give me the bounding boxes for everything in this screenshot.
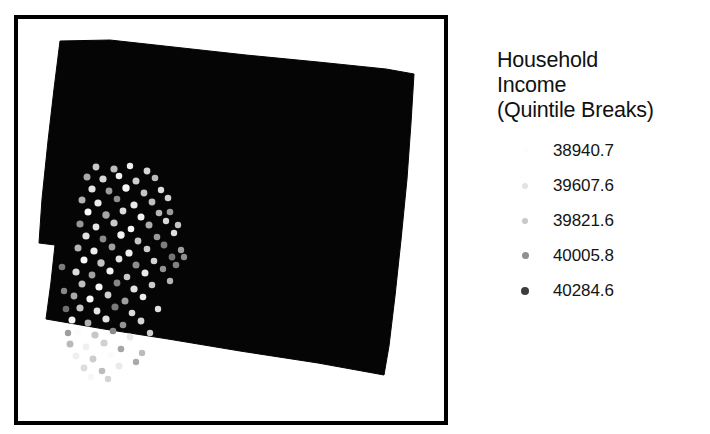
income-point [110,165,117,172]
income-point [63,306,70,313]
income-point [93,224,100,231]
income-point [61,288,67,294]
income-point [171,230,177,236]
income-point [81,257,88,264]
legend: Household Income (Quintile Breaks) 38940… [497,48,707,308]
income-point [111,303,118,310]
income-point [105,292,112,299]
income-point [138,214,145,221]
income-point [160,266,166,272]
income-point [99,175,106,182]
legend-item: 39607.6 [497,168,707,203]
income-point [89,272,96,279]
legend-item-label: 40005.8 [553,246,614,266]
legend-swatch-cell [497,252,553,259]
income-point [139,350,145,356]
income-point [127,163,133,169]
income-point [154,234,161,241]
legend-item: 38940.7 [497,133,707,168]
legend-swatch-cell [497,148,553,153]
income-point [151,258,158,265]
income-point [106,188,113,195]
income-point [75,245,82,252]
legend-item-label: 39821.6 [553,211,614,231]
income-point [147,330,153,336]
income-point [82,232,89,239]
income-point [85,320,92,327]
income-point [100,339,107,346]
income-point [97,259,104,266]
income-point [178,247,184,253]
income-point [88,374,95,381]
income-point [95,283,102,290]
income-point [76,220,83,227]
income-point [90,247,97,254]
income-point [155,306,161,312]
income-point [161,242,168,249]
income-point [71,293,78,300]
income-point [146,222,153,229]
legend-swatch-dot [522,218,528,224]
income-point [110,328,117,335]
income-point [79,197,86,204]
legend-swatch-dot [522,252,529,259]
income-point [72,268,79,275]
income-point [94,308,101,315]
legend-swatch-dot [522,183,528,189]
income-point [84,174,91,181]
income-point [90,356,97,363]
income-point [142,270,149,277]
income-point [116,363,123,370]
legend-item-label: 40284.6 [553,281,614,301]
income-point [167,278,173,284]
income-point [122,298,129,305]
income-point [118,346,125,353]
income-point [86,295,93,302]
income-point [144,168,151,175]
legend-item: 40005.8 [497,238,707,273]
income-point [173,262,180,269]
income-point [127,334,134,341]
legend-swatch-cell [497,218,553,224]
legend-item-list: 38940.739607.639821.640005.840284.6 [497,133,707,308]
income-point [93,164,100,171]
income-point [163,218,169,224]
income-point [130,285,137,292]
income-point [141,190,148,197]
legend-item-label: 38940.7 [553,141,614,161]
income-point [73,353,80,360]
income-point [81,365,88,372]
legend-item: 40284.6 [497,273,707,308]
income-point [83,344,90,351]
income-point [116,256,123,263]
income-point [69,317,76,324]
income-point [91,331,98,338]
income-point [76,304,83,311]
legend-title: Household Income (Quintile Breaks) [497,48,707,123]
income-point [105,376,111,382]
income-point [116,173,123,180]
map-frame [14,15,448,425]
income-point [120,322,127,329]
income-point [102,211,109,218]
legend-swatch-cell [497,183,553,189]
income-point [135,238,142,245]
income-point [88,185,95,192]
legend-item-label: 39607.6 [553,176,614,196]
income-point [108,352,115,359]
income-point [100,236,107,243]
income-point [94,199,101,206]
income-point [79,281,86,288]
income-point [110,219,117,226]
income-point [138,318,145,325]
map-canvas [18,19,444,421]
income-point [102,315,109,322]
income-point [125,249,132,256]
income-point [152,175,159,182]
income-point [59,264,66,271]
legend-swatch-dot [523,148,528,153]
county-boundary-polygon [39,40,414,375]
income-point [133,262,140,269]
income-point [133,178,140,185]
income-point [109,244,116,251]
